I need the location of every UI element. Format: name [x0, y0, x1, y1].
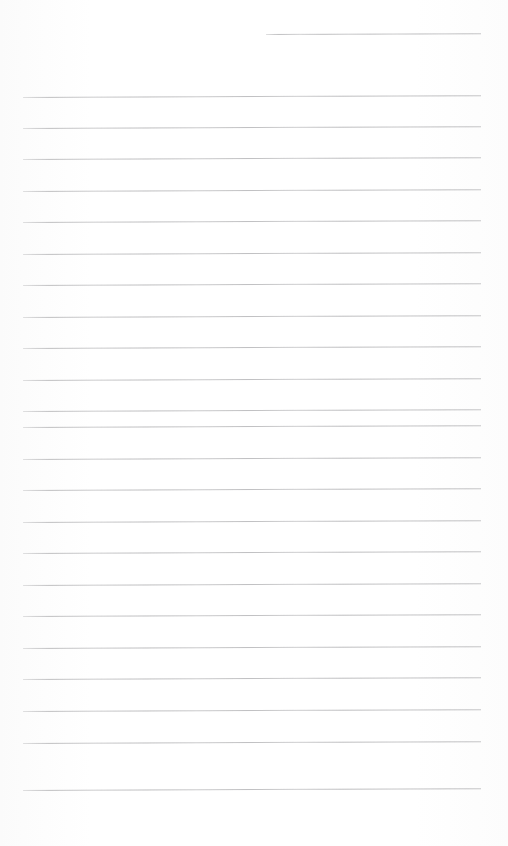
- notebook-page: [0, 0, 508, 846]
- writing-area[interactable]: [23, 34, 481, 794]
